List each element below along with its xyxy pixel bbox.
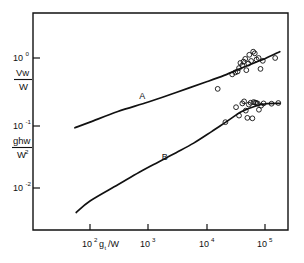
x-tick-label-1e5-exponent: 5 [269,236,273,243]
log-log-chart: 10 0 10 -1 10 -2 Vw W ghw W 2 10 2 [0,0,304,263]
scatter-layer [215,49,280,124]
curve-label-b: B [162,152,168,162]
y-tick-label-1e0: 10 0 [13,50,30,63]
y-axis-ticks [33,58,40,188]
x-axis-label-subscript: t [105,245,107,251]
data-point-marker [234,105,239,110]
plot-frame [33,13,288,230]
x-tick-label-1e3-mantissa: 10 [140,239,150,249]
x-axis-ticks [90,224,265,230]
x-axis-label-tail: /W [108,239,120,249]
x-tick-label-1e4-mantissa: 10 [199,239,209,249]
curves-layer [75,52,280,213]
y-quantity-2-denominator-exponent: 2 [25,148,29,155]
y-axis-quantity-ghw-over-w2: ghw W 2 [12,135,32,160]
y-tick-label-1e0-mantissa: 10 [13,53,23,63]
y-axis-quantity-vw-over-w: Vw W [14,67,32,92]
data-point-marker [244,68,249,73]
data-point-marker [250,116,255,121]
x-tick-label-1e2-exponent: 2 [94,236,98,243]
x-tick-label-1e3-exponent: 3 [152,236,156,243]
y-tick-label-1e-1: 10 -1 [13,118,32,131]
data-point-marker [258,66,263,71]
x-tick-label-1e3: 10 3 [140,236,156,249]
x-tick-label-1e2-mantissa: 10 [82,239,92,249]
data-point-marker [245,115,250,120]
x-axis-label-base: g [99,239,104,249]
y-tick-label-1e-2-exponent: -2 [26,180,32,187]
x-tick-label-1e4-exponent: 4 [211,236,215,243]
data-point-marker [215,86,220,91]
y-quantity-1-numerator: Vw [16,67,29,78]
y-tick-label-1e-2-mantissa: 10 [13,183,23,193]
y-tick-label-1e-1-mantissa: 10 [13,121,23,131]
x-tick-label-1e2: 10 2 [82,236,98,249]
y-quantity-2-numerator: ghw [13,135,31,146]
curve-label-a: A [139,91,145,101]
y-tick-label-1e-2: 10 -2 [13,180,32,193]
data-point-marker [273,56,278,61]
y-tick-label-1e-1-exponent: -1 [26,118,32,125]
y-quantity-1-denominator: W [19,81,28,92]
x-axis-label: g t /W [99,239,120,251]
x-tick-label-1e5-mantissa: 10 [257,239,267,249]
figure-container: 10 0 10 -1 10 -2 Vw W ghw W 2 10 2 [0,0,304,263]
x-tick-label-1e5: 10 5 [257,236,273,249]
y-tick-label-1e0-exponent: 0 [26,50,30,57]
x-tick-label-1e4: 10 4 [199,236,215,249]
